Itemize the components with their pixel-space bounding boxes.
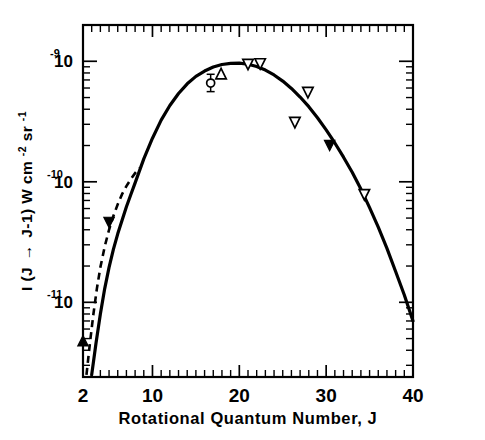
data-point-triangle-up-open [216,68,226,78]
x-axis-major-ticks [83,25,413,377]
y-title-exponent-1: -2 [16,146,28,156]
data-point-triangle-down-open [290,117,300,127]
data-point-triangle-up-filled [78,336,88,346]
y-title-arrow-icon: → [18,244,35,260]
data-point-circle-open [207,74,215,91]
svg-text:I (J → J-1) W: I (J → J-1) W cm -2 sr -1 [12,111,35,291]
y-title-lead: I (J [18,267,35,291]
data-point-triangle-down-filled [104,217,114,227]
y-axis-major-ticks [83,61,413,302]
y-tick-label: 10-10 [47,168,73,192]
data-point-triangle-down-open [303,87,313,97]
y-tick-label: 10-11 [47,288,73,312]
x-tick-label: 10 [142,385,163,406]
svg-text:-11: -11 [47,288,62,300]
y-title-mid: J-1) W cm [18,161,35,238]
x-axis-minor-ticks [92,25,405,377]
x-axis-tick-labels: 210203040 [78,385,424,406]
x-tick-label: 2 [78,385,89,406]
figure-canvas: 210203040 10-910-1010-11 Rotational Quan… [0,0,485,440]
x-tick-label: 20 [229,385,250,406]
y-title-unit-2: sr [18,126,35,141]
data-points [78,59,370,346]
data-point-triangle-down-open [359,190,369,200]
rotational-intensity-chart: 210203040 10-910-1010-11 Rotational Quan… [0,0,485,440]
svg-text:-9: -9 [50,47,60,59]
svg-text:-10: -10 [47,168,63,180]
y-title-exponent-2: -1 [16,111,28,121]
y-axis-title: I (J → J-1) W cm -2 sr -1 [12,111,35,291]
x-tick-label: 30 [316,385,337,406]
curve-theory-solid [92,63,413,375]
x-axis-title: Rotational Quantum Number, J [119,409,378,427]
theory-curves [86,63,413,375]
data-point-triangle-down-filled [324,140,334,150]
y-axis-tick-labels: 10-910-1010-11 [47,47,73,312]
y-tick-label: 10-9 [50,47,73,71]
plot-frame [83,25,413,377]
x-tick-label: 40 [402,385,423,406]
